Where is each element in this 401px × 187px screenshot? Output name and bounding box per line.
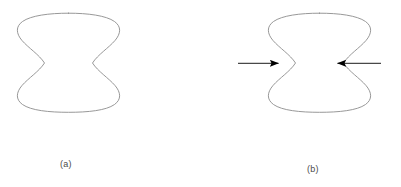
panel-b-caption: (b) — [307, 164, 319, 174]
panel-b-group — [238, 13, 381, 112]
panel-a-group — [17, 13, 119, 112]
figure-container: (a) (b) — [0, 0, 401, 187]
panel-a-shape-outline — [17, 13, 119, 112]
panel-a-caption: (a) — [60, 159, 72, 169]
panel-b-shape-outline — [268, 13, 370, 112]
